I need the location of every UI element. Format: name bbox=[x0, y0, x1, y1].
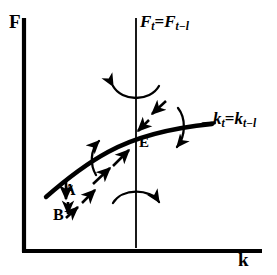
f-eq-rhs: F bbox=[164, 12, 175, 31]
k-eq-sign: = bbox=[225, 109, 235, 128]
field-arrow-down-left-2 bbox=[138, 120, 149, 131]
point-label-e: E bbox=[139, 135, 149, 150]
f-eq-rhs-sub: t−l bbox=[176, 20, 189, 33]
point-label-b: B bbox=[53, 207, 64, 223]
field-arrow-up-right-1 bbox=[82, 190, 95, 203]
phase-diagram-figure: F k A B E Ft=Ft−l kt=kt−l bbox=[0, 0, 277, 275]
k-eq-rhs: k bbox=[234, 109, 243, 128]
x-axis-label: k bbox=[238, 250, 249, 269]
f-eq-lhs: F bbox=[140, 12, 151, 31]
field-arrow-down-left-1 bbox=[152, 101, 166, 114]
field-arrows-down-left bbox=[138, 101, 166, 131]
k-eq-rhs-sub: t−l bbox=[243, 117, 256, 130]
y-axis-label: F bbox=[9, 12, 21, 31]
k-eq-lhs: k bbox=[213, 109, 222, 128]
f-eq-sign: = bbox=[155, 12, 165, 31]
k-nullcline-equation-label: kt=kt−l bbox=[213, 110, 256, 130]
field-arrow-up-right-3 bbox=[113, 150, 129, 166]
f-nullcline-equation-label: Ft=Ft−l bbox=[140, 13, 189, 33]
point-label-a: A bbox=[64, 182, 76, 198]
